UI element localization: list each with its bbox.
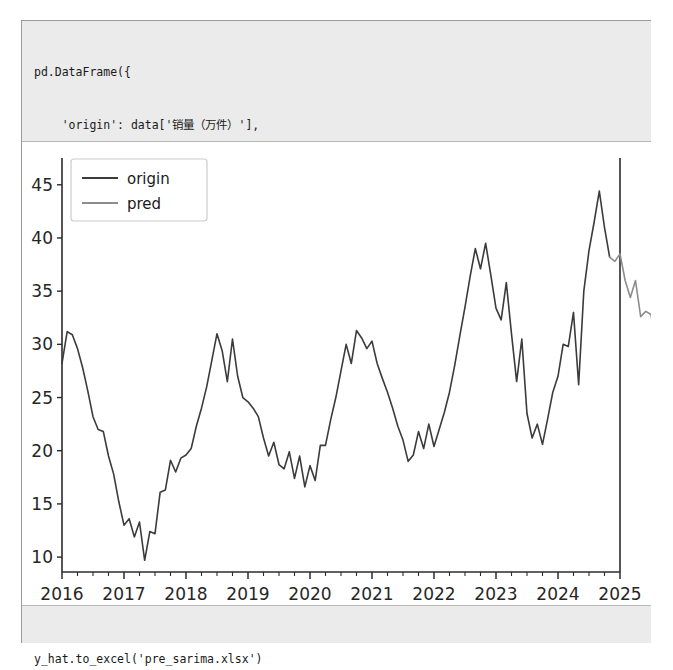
x-tick-label: 2021 bbox=[350, 584, 393, 604]
y-tick-label: 10 bbox=[31, 547, 53, 567]
y-tick-label: 35 bbox=[31, 281, 53, 301]
series-line-origin bbox=[62, 191, 610, 560]
y-tick-label: 40 bbox=[31, 228, 53, 248]
legend-label-origin: origin bbox=[127, 170, 170, 188]
dataframe-plot-code-cell[interactable]: pd.DataFrame({ 'origin': data['销量（万件）'],… bbox=[22, 21, 651, 142]
legend-label-pred: pred bbox=[127, 195, 161, 213]
code-line: pd.DataFrame({ bbox=[34, 64, 641, 82]
x-tick-label: 2019 bbox=[226, 584, 269, 604]
x-tick-label: 2017 bbox=[102, 584, 145, 604]
y-tick-label: 15 bbox=[31, 494, 53, 514]
x-tick-label: 2016 bbox=[40, 584, 83, 604]
x-tick-label: 2023 bbox=[474, 584, 517, 604]
matplotlib-figure-output: 1015202530354045201620172018201920202021… bbox=[22, 142, 651, 605]
to-excel-code-cell[interactable]: y_hat.to_excel('pre_sarima.xlsx') bbox=[22, 605, 651, 643]
notebook-cell-frame: pd.DataFrame({ 'origin': data['销量（万件）'],… bbox=[21, 20, 651, 643]
x-tick-label: 2022 bbox=[412, 584, 455, 604]
x-tick-label: 2025 bbox=[598, 584, 641, 604]
code-line: 'origin': data['销量（万件）'], bbox=[34, 117, 641, 135]
x-tick-label: 2020 bbox=[288, 584, 331, 604]
y-tick-label: 25 bbox=[31, 388, 53, 408]
series-line-pred bbox=[610, 254, 651, 347]
y-tick-label: 45 bbox=[31, 175, 53, 195]
x-tick-label: 2024 bbox=[536, 584, 579, 604]
x-tick-label: 2018 bbox=[164, 584, 207, 604]
code-line: y_hat.to_excel('pre_sarima.xlsx') bbox=[34, 651, 641, 669]
y-tick-label: 20 bbox=[31, 441, 53, 461]
line-chart: 1015202530354045201620172018201920202021… bbox=[22, 142, 651, 605]
y-tick-label: 30 bbox=[31, 334, 53, 354]
